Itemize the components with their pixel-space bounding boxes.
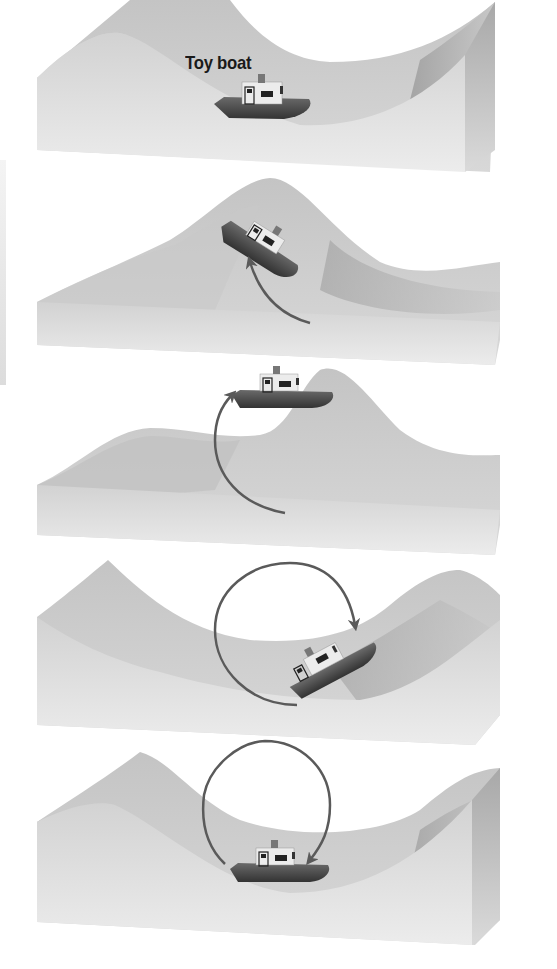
panel-5 — [37, 741, 500, 945]
wave-orbital-diagram: Toy boat — [0, 0, 557, 969]
panel-1 — [37, 0, 495, 172]
diagram-canvas — [0, 0, 557, 969]
panel-4 — [37, 560, 500, 745]
panel-3 — [37, 366, 500, 555]
left-edge-band — [0, 160, 6, 385]
panel-2 — [37, 178, 500, 365]
toy-boat-label: Toy boat — [185, 52, 251, 74]
